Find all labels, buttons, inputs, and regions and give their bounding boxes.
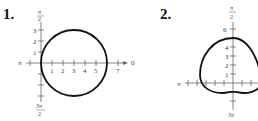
svg-text:2: 2 [61, 67, 65, 75]
svg-text:4: 4 [225, 44, 229, 52]
arrow-icon [123, 61, 128, 65]
svg-text:3: 3 [72, 67, 76, 75]
svg-text:π: π [18, 59, 22, 67]
svg-text:1: 1 [50, 67, 54, 75]
svg-text:2: 2 [38, 111, 41, 117]
svg-text:π: π [177, 80, 181, 88]
svg-text:2: 2 [38, 16, 41, 22]
limacon-curve [200, 38, 258, 93]
svg-text:2: 2 [33, 38, 37, 46]
svg-text:4: 4 [83, 67, 87, 75]
svg-text:2: 2 [230, 14, 233, 20]
svg-text:2: 2 [225, 62, 229, 70]
svg-text:1: 1 [225, 71, 229, 79]
svg-text:π: π [230, 5, 234, 11]
svg-text:3π: 3π [227, 112, 235, 118]
svg-text:3: 3 [225, 53, 229, 61]
svg-text:5: 5 [94, 67, 98, 75]
svg-text:3π: 3π [35, 103, 43, 109]
graph-2: 1 2 3 4 6 π π 2 3π [177, 5, 258, 118]
svg-text:0: 0 [131, 59, 135, 67]
svg-text:3: 3 [33, 27, 37, 35]
graph-1: 1 2 3 4 5 7 1 2 3 π 0 π 2 3π 2 [18, 9, 135, 117]
svg-text:1: 1 [33, 49, 37, 57]
polar-graphs: 1 2 3 4 5 7 1 2 3 π 0 π 2 3π 2 [0, 0, 258, 121]
svg-text:6: 6 [223, 26, 227, 34]
svg-text:7: 7 [116, 67, 120, 75]
svg-text:π: π [38, 9, 42, 15]
